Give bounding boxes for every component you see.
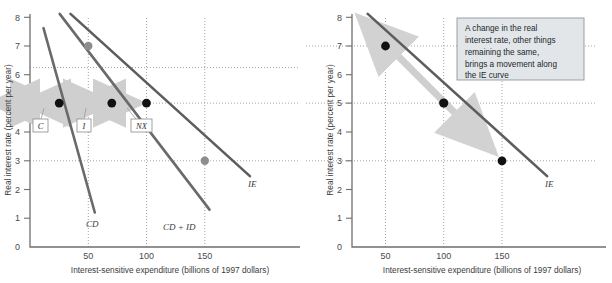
curve-IE <box>71 14 250 176</box>
x-tick-150: 150 <box>494 251 509 261</box>
curve-label-CD: CD <box>86 219 99 229</box>
x-axis-title: Interest-sensitive expenditure (billions… <box>383 265 582 275</box>
point-ie-r3 <box>498 156 507 165</box>
y-tick-4: 4 <box>15 127 20 137</box>
y-tick-8: 8 <box>337 13 342 23</box>
note-line-4: brings a movement along <box>465 60 557 69</box>
note-line-2: interest rate, other things <box>465 36 556 45</box>
y-tick-7: 7 <box>337 41 342 51</box>
y-tick-1: 1 <box>337 213 342 223</box>
point-cdid-r5 <box>107 99 116 108</box>
note-line-1: A change in the real <box>465 24 538 33</box>
point-ie-r7 <box>84 42 92 50</box>
curve-label-IE: IE <box>544 179 554 189</box>
point-cd-r5 <box>55 99 64 108</box>
y-tick-3: 3 <box>337 156 342 166</box>
point-ie-r5 <box>439 99 448 108</box>
gridlines <box>30 18 300 247</box>
curves <box>44 14 250 213</box>
y-axis-title: Real interest rate (percent per year) <box>3 64 13 196</box>
figure-ie-curve: 8 7 6 5 4 3 2 1 0 50 100 150 <box>0 0 612 283</box>
y-tick-5: 5 <box>15 98 20 108</box>
curve-labels: CD CD + ID IE <box>86 179 257 232</box>
curve-CD-plus-ID <box>60 14 210 210</box>
x-axis-title: Interest-sensitive expenditure (billions… <box>71 265 270 275</box>
y-tick-0: 0 <box>337 242 342 252</box>
x-tick-150: 150 <box>197 251 212 261</box>
span-label-NX: NX <box>135 121 148 131</box>
y-axis-title: Real interest rate (percent per year) <box>325 64 335 196</box>
y-tick-0: 0 <box>15 242 20 252</box>
y-tick-7: 7 <box>15 41 20 51</box>
y-tick-8: 8 <box>15 13 20 23</box>
point-ie-r3 <box>201 157 209 165</box>
y-tick-labels: 8 7 6 5 4 3 2 1 0 <box>337 13 342 253</box>
curve-label-CD-plus-ID: CD + ID <box>163 222 196 232</box>
x-tick-100: 100 <box>436 251 451 261</box>
y-tick-6: 6 <box>337 70 342 80</box>
curve-label-IE: IE <box>247 179 257 189</box>
y-tick-5: 5 <box>337 98 342 108</box>
panel-components: 8 7 6 5 4 3 2 1 0 50 100 150 <box>0 0 306 283</box>
movement-note: A change in the real interest rate, othe… <box>457 18 584 80</box>
axes <box>24 14 300 247</box>
x-tick-50: 50 <box>380 251 390 261</box>
note-line-3: remaining the same, <box>465 48 539 57</box>
y-tick-3: 3 <box>15 156 20 166</box>
x-tick-labels: 50 100 150 <box>380 251 509 261</box>
y-tick-2: 2 <box>15 185 20 195</box>
point-ie-r5 <box>142 99 151 108</box>
x-tick-labels: 50 100 150 <box>83 251 212 261</box>
span-label-C: C <box>38 121 44 131</box>
x-tick-50: 50 <box>83 251 93 261</box>
panel-movement: 8 7 6 5 4 3 2 1 0 50 100 150 IE <box>306 0 612 283</box>
note-line-5: the IE curve <box>465 71 509 80</box>
y-tick-4: 4 <box>337 127 342 137</box>
x-tick-100: 100 <box>139 251 154 261</box>
point-ie-r7 <box>381 42 390 51</box>
y-tick-2: 2 <box>337 185 342 195</box>
y-tick-1: 1 <box>15 213 20 223</box>
y-tick-labels: 8 7 6 5 4 3 2 1 0 <box>15 13 20 253</box>
y-tick-6: 6 <box>15 70 20 80</box>
